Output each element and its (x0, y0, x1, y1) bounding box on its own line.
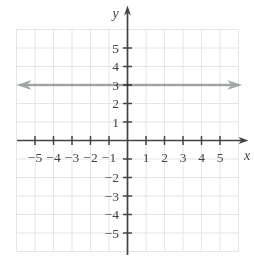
y-axis-label: y (110, 6, 119, 21)
y-tick-label: −5 (105, 226, 120, 241)
y-tick-label: 5 (112, 41, 119, 56)
x-tick-label: −3 (65, 150, 80, 165)
y-tick-label: 2 (112, 96, 119, 111)
x-tick-label: 5 (217, 150, 224, 165)
axes (17, 13, 244, 256)
graph-figure: −5−4−3−2−112345−5−4−3−212345xy (0, 0, 254, 267)
y-tick-label: 1 (112, 115, 119, 130)
y-tick-label: −2 (105, 170, 119, 185)
x-tick-label: 4 (198, 150, 205, 165)
x-tick-label: 2 (161, 150, 168, 165)
x-tick-label: −2 (83, 150, 97, 165)
y-tick-label: −3 (105, 189, 120, 204)
x-tick-label: 3 (180, 150, 187, 165)
x-tick-label: −1 (102, 150, 116, 165)
graph-line (17, 80, 243, 90)
coordinate-plane: −5−4−3−2−112345−5−4−3−212345xy (0, 0, 254, 267)
x-tick-label: 1 (143, 150, 150, 165)
y-tick-label: −4 (105, 207, 120, 222)
y-tick-label: 4 (112, 59, 119, 74)
x-tick-label: −4 (46, 150, 61, 165)
x-axis-label: x (243, 148, 251, 163)
x-tick-label: −5 (28, 150, 43, 165)
